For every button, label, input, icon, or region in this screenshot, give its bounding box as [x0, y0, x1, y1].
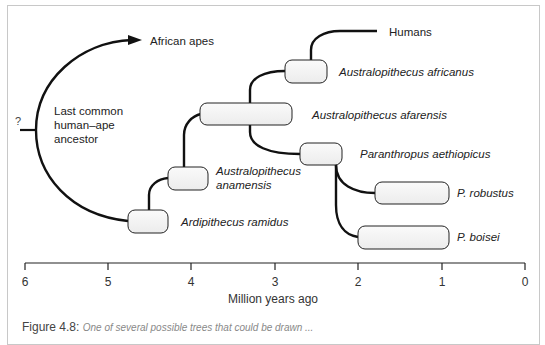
label-australopithecus-anamensis-line2: anamensis [216, 178, 272, 192]
axis-title: Million years ago [228, 292, 318, 306]
species-box-ardipithecus-ramidus [128, 210, 168, 233]
axis-tick-5: 5 [105, 275, 112, 289]
label-ardipithecus-ramidus: Ardipithecus ramidus [181, 215, 288, 229]
arrow-icon [128, 35, 142, 45]
axis-tick-0: 0 [522, 275, 529, 289]
african-apes-label: African apes [150, 34, 214, 48]
species-box-p-robustus [375, 182, 449, 204]
label-australopithecus-afarensis: Australopithecus afarensis [312, 108, 447, 122]
species-box-australopithecus-afarensis [200, 103, 292, 125]
caption-text: One of several possible trees that could… [83, 322, 314, 333]
label-p-robustus: P. robustus [457, 186, 514, 200]
figure-number: Figure 4.8: [22, 320, 79, 334]
axis-tick-1: 1 [439, 275, 446, 289]
root-unknown-marker: ? [15, 114, 21, 128]
label-p-boisei: P. boisei [457, 230, 500, 244]
label-australopithecus-anamensis-line1: Australopithecus [216, 164, 301, 178]
ancestor-label-line3: ancestor [54, 132, 98, 146]
axis-tick-6: 6 [22, 275, 29, 289]
axis-tick-2: 2 [355, 275, 362, 289]
label-paranthropus-aethiopicus: Paranthropus aethiopicus [360, 147, 490, 161]
ancestor-label-line2: human–ape [54, 118, 115, 132]
species-box-paranthropus-aethiopicus [300, 143, 342, 165]
axis-tick-3: 3 [272, 275, 279, 289]
ancestor-label-line1: Last common [54, 104, 123, 118]
species-box-p-boisei [358, 226, 449, 249]
humans-label: Humans [389, 25, 432, 39]
axis-tick-4: 4 [188, 275, 195, 289]
species-box-australopithecus-anamensis [168, 167, 208, 190]
figure-caption: Figure 4.8: One of several possible tree… [22, 320, 313, 334]
label-australopithecus-africanus: Australopithecus africanus [339, 65, 474, 79]
species-box-australopithecus-africanus [285, 60, 327, 83]
time-axis [25, 263, 525, 270]
